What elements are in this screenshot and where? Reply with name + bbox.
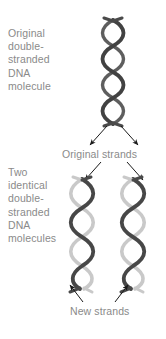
new-strands-pointer-right [115, 285, 128, 302]
split-arrows [90, 126, 138, 145]
split-arrow-left [90, 126, 107, 145]
top-helix [103, 18, 124, 126]
bottom-right-helix [121, 177, 144, 292]
label-new-strands: New strands [70, 305, 129, 318]
top-helix-strand-a [103, 20, 124, 124]
label-original-molecule: Original double- stranded DNA molecule [8, 27, 51, 93]
label-two-molecules: Two identical double- stranded DNA molec… [8, 166, 56, 245]
original-strands-pointers [85, 162, 143, 180]
label-original-strands: Original strands [62, 148, 137, 161]
bottom-left-helix [70, 177, 93, 292]
split-arrow-right [121, 126, 138, 145]
